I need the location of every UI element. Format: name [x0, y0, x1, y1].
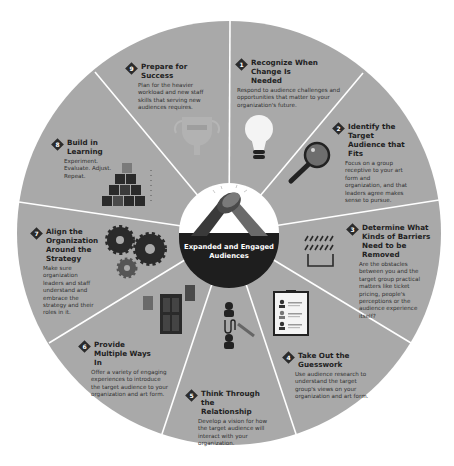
- segment-think-through-relationship: 5 Think Through the Relationship Develop…: [187, 389, 277, 448]
- step-number-badge: 7: [30, 227, 43, 240]
- segment-description: Respond to audience challenges and oppor…: [237, 87, 342, 109]
- segment-build-in-learning: 8 Build in Learning Experiment. Evaluate…: [53, 138, 133, 180]
- segment-title: Prepare for Success: [141, 62, 217, 80]
- segment-provide-multiple-ways: 6 Provide Multiple Ways In Offer a varie…: [80, 340, 170, 399]
- segment-description: Plan for the heavier workload and new st…: [138, 82, 212, 112]
- center-label: Expanded and Engaged Audiences: [182, 243, 276, 261]
- segment-title: Recognize When Change Is Needed: [251, 58, 319, 85]
- segment-title: Provide Multiple Ways In: [94, 340, 154, 367]
- step-number-badge: 2: [332, 122, 345, 135]
- step-number-badge: 4: [282, 351, 295, 364]
- segment-title: Think Through the Relationship: [201, 389, 261, 416]
- clipboard-survey-icon: [274, 290, 308, 335]
- step-number-badge: 1: [235, 58, 248, 71]
- segment-description: Focus on a group receptive to your art f…: [345, 160, 407, 204]
- segment-description: Offer a variety of engaging experiences …: [91, 369, 171, 399]
- segment-identify-target-audience: 2 Identify the Target Audience that Fits…: [334, 122, 416, 204]
- segment-determine-barriers: 3 Determine What Kinds of Barriers Need …: [348, 223, 432, 320]
- segment-description: Develop a vision for how the target audi…: [198, 418, 278, 448]
- segment-title: Align the Organization Around the Strate…: [46, 227, 96, 263]
- segment-title: Build in Learning: [67, 138, 132, 156]
- segment-take-out-guesswork: 4 Take Out the Guesswork Use audience re…: [284, 351, 384, 401]
- step-number-badge: 9: [125, 62, 138, 75]
- segment-align-organization: 7 Align the Organization Around the Stra…: [32, 227, 102, 317]
- segment-title: Take Out the Guesswork: [298, 351, 384, 369]
- segment-prepare-for-success: 9 Prepare for Success Plan for the heavi…: [127, 62, 217, 112]
- segment-description: Experiment. Evaluate. Adjust. Repeat.: [64, 158, 114, 180]
- center-hub: [179, 183, 279, 288]
- step-number-badge: 5: [185, 389, 198, 402]
- segment-recognize-change: 1 Recognize When Change Is Needed Respon…: [237, 58, 347, 109]
- segment-description: Make sure organization leaders and staff…: [43, 265, 99, 317]
- step-number-badge: 8: [51, 138, 64, 151]
- segment-title: Identify the Target Audience that Fits: [348, 122, 408, 158]
- segment-description: Are the obstacles between you and the ta…: [359, 261, 429, 320]
- segment-title: Determine What Kinds of Barriers Need to…: [362, 223, 432, 259]
- segment-description: Use audience research to understand the …: [295, 371, 375, 401]
- step-number-badge: 3: [346, 223, 359, 236]
- step-number-badge: 6: [78, 340, 91, 353]
